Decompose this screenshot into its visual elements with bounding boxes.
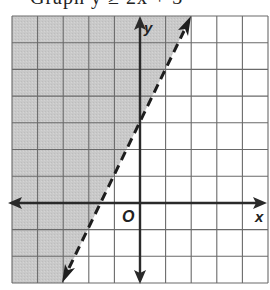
origin-label: O <box>122 208 135 225</box>
coordinate-graph: y x O <box>0 0 270 290</box>
y-axis-label: y <box>143 19 153 36</box>
x-axis-label: x <box>254 208 264 225</box>
